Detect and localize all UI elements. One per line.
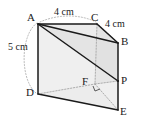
vertex-dot-P — [117, 80, 119, 82]
vertex-label-D: D — [26, 87, 34, 98]
dimension-label-top: 4 cm — [54, 7, 74, 17]
vertex-label-P: P — [121, 75, 127, 86]
vertex-label-A: A — [27, 12, 35, 23]
vertex-label-F: F — [82, 76, 88, 87]
vertex-label-C: C — [91, 12, 98, 23]
vertex-label-B: B — [121, 36, 128, 47]
dimension-label-right: 4 cm — [105, 19, 125, 29]
geometry-figure: A C B D F P E 4 cm 4 cm 5 cm — [0, 0, 142, 130]
vertex-dots — [117, 80, 119, 82]
leader-arc-left — [24, 23, 37, 93]
vertex-label-E: E — [120, 106, 127, 117]
dimension-label-left: 5 cm — [8, 42, 28, 52]
